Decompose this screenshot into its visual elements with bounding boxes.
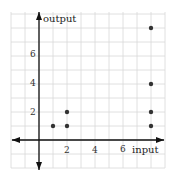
data-point [51,124,55,128]
y-axis-down-arrow-icon [36,162,42,170]
data-point [149,26,153,30]
data-point [149,82,153,86]
x-axis-right-arrow-icon [156,137,164,143]
data-points [51,26,153,128]
x-tick-6: 6 [120,144,126,154]
y-tick-4: 4 [30,78,36,88]
data-point [65,124,69,128]
data-point [65,110,69,114]
data-point [149,124,153,128]
x-axis-left-arrow-icon [12,137,20,143]
y-axis-up-arrow-icon [36,12,42,20]
y-tick-2: 2 [30,107,36,117]
data-point [149,110,153,114]
x-tick-4: 4 [92,145,98,155]
coordinate-plane: output input 2 4 6 2 4 6 [0,0,170,176]
y-axis-label: output [43,13,76,24]
x-tick-2: 2 [64,145,70,155]
x-axis-label: input [132,144,159,155]
y-tick-6: 6 [30,49,36,59]
